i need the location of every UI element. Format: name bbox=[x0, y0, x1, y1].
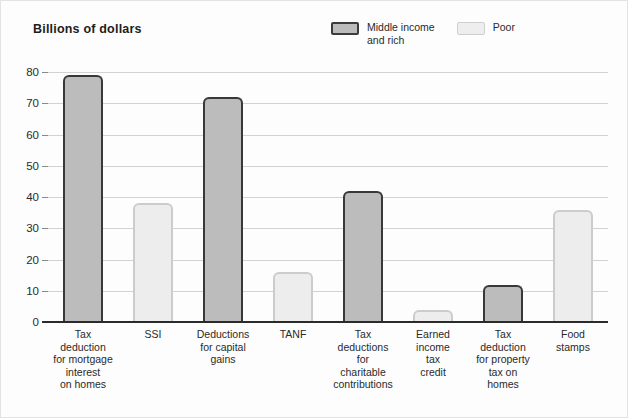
x-axis-label: SSI bbox=[118, 328, 188, 391]
plot-area: 80706050403020100 bbox=[48, 72, 608, 322]
legend-item-poor: Poor bbox=[457, 21, 515, 35]
y-axis-tick-label: 50 bbox=[26, 160, 39, 172]
x-axis-label: TANF bbox=[258, 328, 328, 391]
y-axis-tick-label: 30 bbox=[26, 222, 39, 234]
bar bbox=[133, 203, 173, 322]
x-axis-label: Deductions for capital gains bbox=[188, 328, 258, 391]
x-axis-label: Earned income tax credit bbox=[398, 328, 468, 391]
legend-swatch-icon-light bbox=[457, 22, 485, 35]
x-axis-line bbox=[42, 321, 608, 324]
bar-slot bbox=[118, 72, 188, 322]
legend-label-middle-income-and-rich: Middle income and rich bbox=[367, 21, 435, 46]
y-axis-tick-label: 70 bbox=[26, 97, 39, 109]
page-title: Billions of dollars bbox=[33, 22, 142, 36]
bar-slot bbox=[188, 72, 258, 322]
y-axis-tick-label: 0 bbox=[33, 316, 39, 328]
bar bbox=[553, 210, 593, 323]
bar-slot bbox=[538, 72, 608, 322]
bar-slot bbox=[468, 72, 538, 322]
x-axis-label: Tax deductions for charitable contributi… bbox=[328, 328, 398, 391]
y-axis-tick-label: 80 bbox=[26, 66, 39, 78]
bar bbox=[63, 75, 103, 322]
legend-item-middle-income-and-rich: Middle income and rich bbox=[331, 21, 435, 46]
bar-slot bbox=[398, 72, 468, 322]
bar-slot bbox=[258, 72, 328, 322]
y-axis-tick-label: 20 bbox=[26, 254, 39, 266]
chart-container: Billions of dollars Middle income and ri… bbox=[0, 0, 628, 418]
bar-slot bbox=[48, 72, 118, 322]
bar bbox=[483, 285, 523, 323]
legend-swatch-icon-dark bbox=[331, 22, 359, 35]
bar bbox=[343, 191, 383, 322]
y-axis-tick-label: 40 bbox=[26, 191, 39, 203]
bar bbox=[203, 97, 243, 322]
bar bbox=[273, 272, 313, 322]
x-axis-label: Tax deduction for property tax on homes bbox=[468, 328, 538, 391]
bar-slot bbox=[328, 72, 398, 322]
bars-group bbox=[48, 72, 608, 322]
y-axis-tick-label: 10 bbox=[26, 285, 39, 297]
x-axis-label: Food stamps bbox=[538, 328, 608, 391]
y-axis-tick-label: 60 bbox=[26, 129, 39, 141]
x-axis-label: Tax deduction for mortgage interest on h… bbox=[48, 328, 118, 391]
x-axis-labels: Tax deduction for mortgage interest on h… bbox=[48, 328, 608, 391]
chart-legend: Middle income and rich Poor bbox=[331, 21, 515, 46]
legend-label-poor: Poor bbox=[493, 21, 515, 34]
